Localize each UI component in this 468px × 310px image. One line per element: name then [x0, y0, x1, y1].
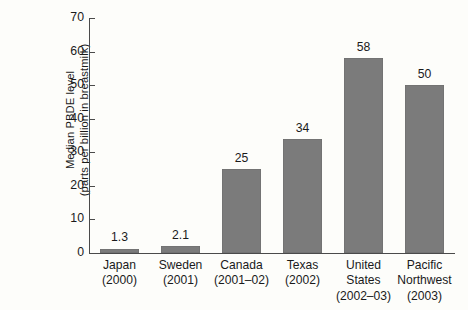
bar[interactable] — [344, 58, 383, 253]
y-axis-tick-mark — [90, 219, 95, 220]
y-axis-tick-label: 20 — [70, 178, 84, 192]
y-axis-tick: 40 — [89, 119, 95, 120]
bar-value-label: 34 — [296, 122, 310, 134]
y-axis-tick: 10 — [89, 219, 95, 220]
y-axis-tick-mark — [90, 85, 95, 86]
y-axis-tick-label: 60 — [70, 44, 84, 58]
bar-chart: Median PBDE level (parts per billion in … — [0, 0, 468, 310]
y-axis-tick-label: 40 — [70, 111, 84, 125]
bar[interactable] — [405, 85, 444, 253]
x-axis-category-label: PacificNorthwest(2003) — [388, 258, 461, 304]
y-axis-tick: 0 — [89, 253, 95, 254]
y-axis-tick: 50 — [89, 85, 95, 86]
bar[interactable] — [100, 249, 139, 253]
x-axis-category-line: (2003) — [388, 289, 461, 304]
y-axis-tick-mark — [90, 152, 95, 153]
bar-group[interactable]: 1.3 — [100, 231, 139, 253]
y-axis-tick-mark — [90, 52, 95, 53]
y-axis-tick-mark — [90, 253, 95, 254]
y-axis-tick-label: 70 — [70, 10, 84, 24]
x-axis-line — [89, 253, 455, 254]
y-axis-tick-mark — [90, 119, 95, 120]
bar-value-label: 58 — [357, 41, 371, 53]
bar-value-label: 2.1 — [172, 229, 189, 241]
bar-group[interactable]: 34 — [283, 122, 322, 253]
y-axis-tick-mark — [90, 186, 95, 187]
bar-value-label: 1.3 — [111, 231, 128, 243]
plot-area: 010203040506070 1.32.125345850 Japan(200… — [89, 18, 455, 254]
y-axis-tick-mark — [90, 18, 95, 19]
y-axis-tick-label: 50 — [70, 77, 84, 91]
bar-group[interactable]: 50 — [405, 68, 444, 253]
bar-group[interactable]: 2.1 — [161, 229, 200, 253]
y-axis-tick: 30 — [89, 152, 95, 153]
y-axis-tick-label: 30 — [70, 144, 84, 158]
x-axis-category-line: Pacific — [388, 258, 461, 273]
bar-group[interactable]: 25 — [222, 152, 261, 253]
bar-value-label: 50 — [418, 68, 432, 80]
y-axis-tick-label: 10 — [70, 211, 84, 225]
y-axis-tick: 70 — [89, 18, 95, 19]
x-axis-category-line: Northwest — [388, 273, 461, 288]
y-axis-tick-label: 0 — [77, 245, 84, 259]
y-axis-tick: 60 — [89, 52, 95, 53]
bar-group[interactable]: 58 — [344, 41, 383, 253]
bar-value-label: 25 — [235, 152, 249, 164]
y-axis-tick: 20 — [89, 186, 95, 187]
bar[interactable] — [222, 169, 261, 253]
bar[interactable] — [283, 139, 322, 253]
bar[interactable] — [161, 246, 200, 253]
